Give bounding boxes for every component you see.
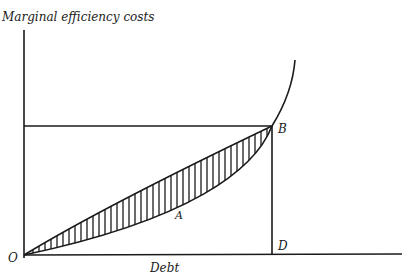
x-axis	[24, 254, 402, 255]
x-axis-label: Debt	[149, 261, 179, 275]
curve-extension	[272, 60, 295, 126]
hatched-region	[24, 120, 274, 260]
diagram-canvas: Marginal efficiency costs Debt O B D A	[0, 0, 413, 280]
point-a-label: A	[174, 209, 183, 222]
y-axis-label: Marginal efficiency costs	[1, 10, 154, 24]
point-d-label: D	[277, 239, 288, 253]
point-o-label: O	[8, 251, 18, 265]
point-b-label: B	[277, 122, 287, 136]
